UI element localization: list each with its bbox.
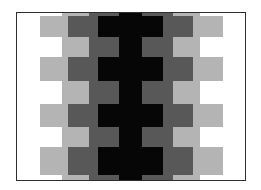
pattern-block-black	[119, 37, 142, 57]
pattern-block-dark-gray	[142, 37, 173, 57]
pattern-block-light-gray	[62, 37, 89, 57]
pattern-block-light-gray	[173, 127, 200, 147]
pattern-block-light-gray	[62, 81, 89, 104]
pattern-block-dark-gray	[163, 147, 193, 175]
pattern-block-light-gray	[173, 81, 200, 104]
pattern-block-black	[98, 147, 163, 175]
pattern-block-black	[119, 81, 142, 104]
pattern-block-light-gray	[62, 127, 89, 147]
pattern-block-black	[98, 104, 163, 127]
pattern-block-light-gray	[40, 57, 68, 81]
pattern-block-dark-gray	[89, 37, 119, 57]
pattern-block-dark-gray	[142, 127, 173, 147]
illusion-frame	[16, 12, 246, 181]
pattern-block-black	[98, 57, 163, 81]
pattern-block-light-gray	[62, 175, 89, 181]
pattern-block-dark-gray	[163, 16, 193, 37]
pattern-block-light-gray	[173, 37, 200, 57]
pattern-block-dark-gray	[163, 104, 193, 127]
pattern-block-dark-gray	[68, 57, 98, 81]
pattern-block-light-gray	[40, 16, 68, 37]
pattern-block-dark-gray	[89, 127, 119, 147]
pattern-block-dark-gray	[68, 16, 98, 37]
pattern-block-dark-gray	[68, 147, 98, 175]
pattern-block-dark-gray	[89, 81, 119, 104]
pattern-block-black	[98, 16, 163, 37]
pattern-block-black	[119, 127, 142, 147]
pattern-block-light-gray	[193, 104, 223, 127]
pattern-block-light-gray	[173, 175, 200, 181]
pattern-block-dark-gray	[142, 81, 173, 104]
pattern-block-dark-gray	[68, 104, 98, 127]
pattern-block-light-gray	[40, 104, 68, 127]
pattern-block-dark-gray	[89, 175, 119, 181]
pattern-block-light-gray	[40, 147, 68, 175]
pattern-block-light-gray	[193, 57, 223, 81]
pattern-block-light-gray	[193, 147, 223, 175]
pattern-block-dark-gray	[163, 57, 193, 81]
pattern-block-black	[119, 175, 142, 181]
pattern-block-dark-gray	[142, 175, 173, 181]
pattern-block-light-gray	[193, 16, 223, 37]
